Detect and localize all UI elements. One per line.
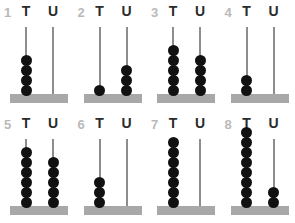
tens-bead-stack: [166, 138, 180, 208]
tens-bead-stack: [19, 56, 33, 96]
bead: [94, 197, 105, 208]
tens-bead-stack: [240, 76, 254, 96]
units-spike: [199, 139, 201, 211]
bead: [21, 85, 32, 96]
bead: [241, 85, 252, 96]
units-spike: [52, 27, 54, 99]
units-column-header: U: [120, 116, 134, 130]
units-bead-stack: [193, 56, 207, 96]
abacus-6: 6TU: [74, 112, 148, 223]
abacus-index-label: 8: [225, 118, 232, 131]
units-bead-stack: [46, 158, 60, 208]
tens-column-header: T: [240, 4, 254, 18]
abacus-index-label: 7: [151, 118, 158, 131]
abacus-worksheet: 1TU2TU3TU4TU 5TU6TU7TU8TU: [0, 0, 294, 223]
abacus-index-label: 1: [4, 6, 11, 19]
units-column-header: U: [46, 4, 60, 18]
bead: [21, 197, 32, 208]
tens-column-header: T: [93, 4, 107, 18]
units-spike: [126, 139, 128, 211]
abacus-index-label: 3: [151, 6, 158, 19]
units-column-header: U: [193, 4, 207, 18]
abacus-index-label: 2: [78, 6, 85, 19]
tens-bead-stack: [93, 178, 107, 208]
abacus-index-label: 6: [78, 118, 85, 131]
tens-column-header: T: [19, 116, 33, 130]
bead: [268, 197, 279, 208]
tens-bead-stack: [93, 86, 107, 96]
units-column-header: U: [193, 116, 207, 130]
units-bead-stack: [267, 188, 281, 208]
abacus-row-bottom: 5TU6TU7TU8TU: [0, 112, 294, 223]
abacus-1: 1TU: [0, 0, 74, 111]
tens-bead-stack: [19, 148, 33, 208]
units-column-header: U: [267, 4, 281, 18]
abacus-8: 8TU: [221, 112, 295, 223]
abacus-row-top: 1TU2TU3TU4TU: [0, 0, 294, 111]
abacus-5: 5TU: [0, 112, 74, 223]
units-bead-stack: [120, 66, 134, 96]
tens-column-header: T: [93, 116, 107, 130]
tens-column-header: T: [166, 4, 180, 18]
units-column-header: U: [46, 116, 60, 130]
abacus-4: 4TU: [221, 0, 295, 111]
tens-bead-stack: [240, 128, 254, 208]
bead: [168, 85, 179, 96]
abacus-3: 3TU: [147, 0, 221, 111]
units-column-header: U: [120, 4, 134, 18]
abacus-index-label: 4: [225, 6, 232, 19]
bead: [241, 197, 252, 208]
abacus-2: 2TU: [74, 0, 148, 111]
bead: [121, 85, 132, 96]
bead: [94, 85, 105, 96]
units-spike: [273, 27, 275, 99]
abacus-7: 7TU: [147, 112, 221, 223]
units-column-header: U: [267, 116, 281, 130]
abacus-index-label: 5: [4, 118, 11, 131]
bead: [48, 197, 59, 208]
tens-bead-stack: [166, 46, 180, 96]
tens-column-header: T: [166, 116, 180, 130]
bead: [168, 197, 179, 208]
tens-column-header: T: [19, 4, 33, 18]
bead: [195, 85, 206, 96]
